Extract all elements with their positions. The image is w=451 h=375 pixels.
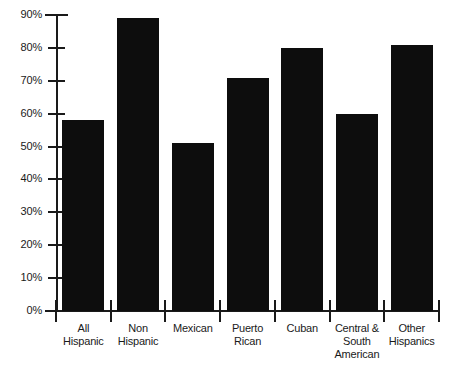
bar (172, 143, 214, 311)
bars-layer (0, 0, 451, 311)
bar-chart: 0%10%20%30%40%50%60%70%80%90% AllHispani… (0, 0, 451, 375)
bar (227, 78, 269, 312)
x-axis-tick (329, 300, 331, 322)
x-axis-tick (383, 300, 385, 322)
category-label: OtherHispanics (378, 322, 445, 348)
x-axis-tick (438, 300, 440, 322)
x-axis-tick (219, 300, 221, 322)
category-label-line: Hispanic (105, 335, 172, 348)
x-axis-tick (55, 300, 57, 322)
category-label-line: American (324, 348, 391, 361)
category-label-line: Hispanics (378, 335, 445, 348)
bar (117, 18, 159, 311)
bar (62, 120, 104, 311)
x-axis-tick (164, 300, 166, 322)
x-axis-tick (110, 300, 112, 322)
bar (336, 114, 378, 311)
category-label-line: Rican (214, 335, 281, 348)
bar (281, 48, 323, 311)
category-label-line: Other (378, 322, 445, 335)
x-axis-tick (274, 300, 276, 322)
bar (391, 45, 433, 311)
